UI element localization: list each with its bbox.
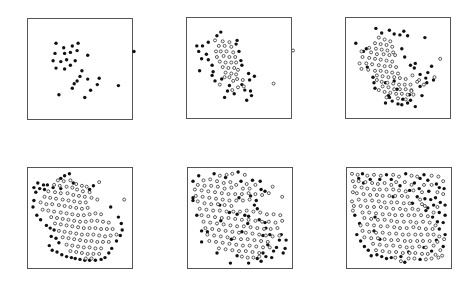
open-point-marker — [253, 239, 256, 242]
open-point-marker — [389, 65, 392, 68]
filled-point-marker — [42, 183, 45, 186]
filled-point-marker — [115, 239, 118, 242]
filled-point-marker — [70, 256, 73, 259]
open-point-marker — [420, 214, 423, 217]
open-point-marker — [242, 85, 245, 88]
open-point-marker — [216, 185, 219, 188]
filled-point-marker — [239, 180, 242, 183]
filled-point-marker — [369, 178, 372, 181]
filled-point-marker — [423, 197, 426, 200]
scatter-plot-area — [346, 18, 450, 118]
open-point-marker — [439, 57, 442, 60]
filled-point-marker — [264, 255, 267, 258]
open-point-marker — [94, 247, 97, 250]
open-point-marker — [409, 83, 412, 86]
open-point-marker — [418, 245, 421, 248]
open-point-marker — [59, 223, 62, 226]
filled-point-marker — [73, 82, 76, 85]
open-point-marker — [389, 91, 392, 94]
open-point-marker — [399, 227, 402, 230]
filled-point-marker — [71, 87, 74, 90]
open-point-marker — [41, 208, 44, 211]
filled-point-marker — [259, 180, 262, 183]
open-point-marker — [375, 194, 378, 197]
open-point-marker — [392, 207, 395, 210]
open-point-marker — [416, 175, 419, 178]
open-point-marker — [381, 194, 384, 197]
open-point-marker — [401, 233, 404, 236]
open-point-marker — [77, 226, 80, 229]
filled-point-marker — [380, 255, 383, 258]
open-point-marker — [217, 44, 220, 47]
open-point-marker — [94, 227, 97, 230]
open-point-marker — [53, 183, 56, 186]
filled-points — [31, 172, 124, 262]
open-point-marker — [367, 68, 370, 71]
open-point-marker — [69, 179, 72, 182]
open-point-marker — [79, 239, 82, 242]
filled-point-marker — [69, 64, 72, 67]
open-point-marker — [274, 221, 277, 224]
open-point-marker — [272, 213, 275, 216]
open-point-marker — [366, 223, 369, 226]
filled-point-marker — [121, 228, 124, 231]
open-point-marker — [260, 240, 263, 243]
filled-point-marker — [399, 255, 402, 258]
filled-point-marker — [373, 87, 376, 90]
open-point-marker — [75, 183, 78, 186]
filled-point-marker — [355, 233, 358, 236]
open-point-marker — [281, 195, 284, 198]
open-point-marker — [259, 211, 262, 214]
scatter-plot-area — [347, 168, 451, 268]
filled-point-marker — [98, 77, 101, 80]
open-point-marker — [90, 240, 93, 243]
open-point-marker — [365, 62, 368, 65]
open-point-marker — [71, 244, 74, 247]
open-point-marker — [85, 185, 88, 188]
open-point-marker — [416, 240, 419, 243]
open-point-marker — [245, 183, 248, 186]
open-point-marker — [372, 242, 375, 245]
filled-point-marker — [263, 190, 266, 193]
open-point-marker — [404, 98, 407, 101]
open-point-marker — [209, 221, 212, 224]
open-point-marker — [439, 249, 442, 252]
open-point-marker — [246, 256, 249, 259]
open-point-marker — [395, 92, 398, 95]
open-point-marker — [393, 226, 396, 229]
filled-point-marker — [431, 215, 434, 218]
open-point-marker — [394, 194, 397, 197]
open-points — [193, 172, 283, 259]
open-point-marker — [377, 64, 380, 67]
open-point-marker — [368, 230, 371, 233]
open-point-marker — [222, 182, 225, 185]
open-point-marker — [406, 195, 409, 198]
open-point-marker — [100, 213, 103, 216]
filled-point-marker — [363, 245, 366, 248]
open-point-marker — [430, 174, 433, 177]
open-point-marker — [426, 252, 429, 255]
open-point-marker — [381, 213, 384, 216]
open-point-marker — [225, 210, 228, 213]
open-point-marker — [366, 174, 369, 177]
filled-point-marker — [418, 85, 421, 88]
open-point-marker — [203, 202, 206, 205]
open-point-marker — [402, 220, 405, 223]
open-point-marker — [375, 212, 378, 215]
open-point-marker — [57, 204, 60, 207]
open-point-marker — [378, 188, 381, 191]
filled-point-marker — [393, 32, 396, 35]
open-point-marker — [421, 191, 424, 194]
open-point-marker — [200, 214, 203, 217]
open-point-marker — [392, 173, 395, 176]
scatter-plot-area — [188, 168, 292, 268]
filled-point-marker — [78, 258, 81, 261]
filled-point-marker — [270, 256, 273, 259]
filled-point-marker — [283, 247, 286, 250]
open-point-marker — [231, 230, 234, 233]
open-point-marker — [228, 56, 231, 59]
filled-point-marker — [200, 240, 203, 243]
open-point-marker — [229, 181, 232, 184]
open-point-marker — [360, 50, 363, 53]
filled-point-marker — [420, 94, 423, 97]
